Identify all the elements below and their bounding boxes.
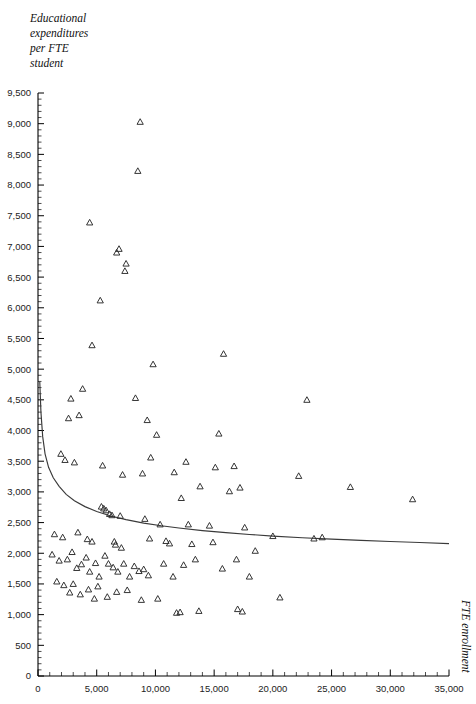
- x-tick-label: 35,000: [434, 683, 463, 694]
- y-tick-label: 0: [26, 670, 31, 681]
- y-tick-label: 9,500: [7, 87, 31, 98]
- data-point-marker: [96, 573, 102, 579]
- x-tick-label: 15,000: [200, 683, 229, 694]
- data-point-marker: [62, 457, 68, 463]
- y-tick-label: 2,500: [7, 517, 31, 528]
- data-point-marker: [89, 342, 95, 348]
- data-point-marker: [114, 589, 120, 595]
- data-point-marker: [68, 395, 74, 401]
- y-axis-title-line2: expenditures: [30, 27, 89, 40]
- data-point-marker: [114, 249, 120, 255]
- data-point-marker: [58, 451, 64, 457]
- y-tick-label: 500: [15, 640, 31, 651]
- data-point-marker: [91, 596, 97, 602]
- data-point-marker: [304, 397, 310, 403]
- y-tick-label: 7,500: [7, 210, 31, 221]
- data-point-marker: [235, 606, 241, 612]
- y-tick-label: 3,000: [7, 486, 31, 497]
- x-tick-label: 25,000: [317, 683, 346, 694]
- data-point-marker: [84, 536, 90, 542]
- data-point-marker: [124, 587, 130, 593]
- data-point-marker: [104, 594, 110, 600]
- data-point-marker: [296, 473, 302, 479]
- data-point-marker: [161, 561, 167, 567]
- data-point-marker: [145, 572, 151, 578]
- y-axis-title-line4: student: [30, 57, 64, 69]
- plot-area: 05001,0001,5002,0002,5003,0003,5004,0004…: [0, 0, 476, 704]
- data-point-marker: [123, 260, 129, 266]
- data-point-marker: [226, 488, 232, 494]
- data-point-marker: [409, 496, 415, 502]
- data-point-marker: [97, 297, 103, 303]
- data-point-marker: [178, 495, 184, 501]
- y-axis-title-line3: per FTE: [29, 42, 69, 55]
- data-point-marker: [233, 556, 239, 562]
- data-point-marker: [64, 556, 70, 562]
- data-point-marker: [71, 459, 77, 465]
- data-point-marker: [95, 583, 101, 589]
- x-tick-label: 30,000: [376, 683, 405, 694]
- data-point-marker: [192, 556, 198, 562]
- data-point-marker: [119, 472, 125, 478]
- data-point-marker: [246, 573, 252, 579]
- data-point-marker: [148, 454, 154, 460]
- data-point-marker: [252, 548, 258, 554]
- data-point-marker: [153, 432, 159, 438]
- data-point-marker: [146, 535, 152, 541]
- data-point-marker: [70, 581, 76, 587]
- data-point-marker: [61, 582, 67, 588]
- data-point-marker: [67, 589, 73, 595]
- data-point-marker: [117, 513, 123, 519]
- data-point-marker: [102, 553, 108, 559]
- y-axis-title-line1: Educational: [29, 12, 86, 24]
- data-point-marker: [122, 268, 128, 274]
- data-point-marker: [137, 119, 143, 125]
- data-point-marker: [51, 531, 57, 537]
- x-tick-label: 20,000: [258, 683, 287, 694]
- y-tick-label: 6,500: [7, 272, 31, 283]
- data-point-marker: [183, 459, 189, 465]
- data-point-marker: [206, 523, 212, 529]
- data-point-marker: [75, 529, 81, 535]
- data-point-marker: [132, 395, 138, 401]
- data-point-marker: [87, 219, 93, 225]
- data-point-marker: [220, 351, 226, 357]
- data-point-marker: [65, 415, 71, 421]
- data-point-marker: [141, 566, 147, 572]
- data-point-marker: [121, 561, 127, 567]
- data-point-marker: [85, 586, 91, 592]
- data-point-marker: [347, 484, 353, 490]
- data-point-marker: [210, 539, 216, 545]
- y-tick-label: 5,000: [7, 364, 31, 375]
- data-point-marker: [126, 573, 132, 579]
- y-axis: 05001,0001,5002,0002,5003,0003,5004,0004…: [7, 87, 44, 681]
- data-point-marker: [185, 521, 191, 527]
- x-tick-label: 5,000: [85, 683, 109, 694]
- data-point-marker: [138, 597, 144, 603]
- data-point-marker: [242, 524, 248, 530]
- data-point-marker: [216, 430, 222, 436]
- y-tick-label: 9,000: [7, 118, 31, 129]
- x-tick-label: 10,000: [141, 683, 170, 694]
- fit-curve: [40, 381, 449, 543]
- y-tick-label: 8,500: [7, 149, 31, 160]
- y-tick-label: 8,000: [7, 179, 31, 190]
- y-tick-label: 4,500: [7, 394, 31, 405]
- data-point-marker: [237, 484, 243, 490]
- data-point-marker: [87, 569, 93, 575]
- x-axis: 05,00010,00015,00020,00025,00030,00035,0…: [35, 670, 463, 695]
- data-point-marker: [60, 534, 66, 540]
- y-tick-label: 7,000: [7, 241, 31, 252]
- data-point-marker: [144, 417, 150, 423]
- data-point-marker: [54, 578, 60, 584]
- data-point-marker: [155, 596, 161, 602]
- x-tick-label: 0: [35, 683, 40, 694]
- data-point-marker: [105, 561, 111, 567]
- data-point-marker: [78, 561, 84, 567]
- data-point-marker: [80, 386, 86, 392]
- data-point-marker: [49, 551, 55, 557]
- y-tick-label: 2,000: [7, 548, 31, 559]
- data-point-marker: [76, 412, 82, 418]
- y-tick-label: 4,000: [7, 425, 31, 436]
- y-tick-label: 3,500: [7, 456, 31, 467]
